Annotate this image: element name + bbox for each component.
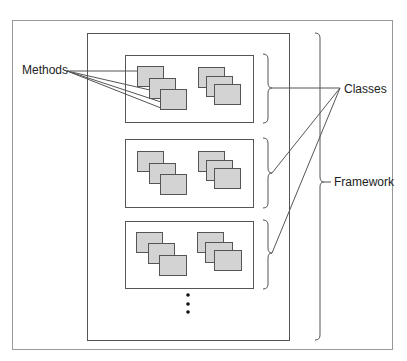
- method-box: [161, 175, 187, 195]
- method-box: [215, 251, 242, 271]
- framework-label: Framework: [334, 175, 395, 189]
- method-box: [215, 85, 241, 105]
- method-box: [161, 90, 187, 110]
- method-box: [215, 169, 241, 189]
- classes-label: Classes: [344, 82, 387, 96]
- methods-label: Methods: [22, 63, 68, 77]
- method-box: [160, 256, 187, 276]
- framework-diagram: Methods Classes Framework: [0, 0, 407, 361]
